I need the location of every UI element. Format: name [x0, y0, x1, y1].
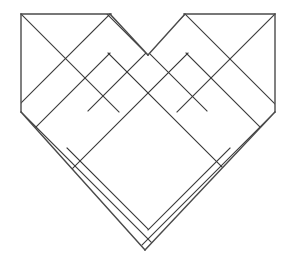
lattice-line-dr-1 [21, 14, 119, 112]
heart-outline-group [21, 14, 275, 250]
outline-lower-right-edge [145, 112, 275, 250]
outline-notch-right [148, 14, 185, 55]
lattice-line-dl-4 [148, 148, 230, 230]
lattice-line-dl-5 [142, 112, 275, 245]
lattice-line-dr-4 [67, 0, 148, 55]
lattice-line-dr-6 [21, 112, 155, 246]
lattice-group-down-left [21, 14, 275, 245]
lattice-line-dl-7 [21, 53, 110, 142]
outline-notch-left [110, 14, 148, 55]
heart-lattice-figure [0, 0, 287, 263]
figure-container: Heart-shaped diagonal square lattice Out… [0, 0, 287, 263]
outline-lower-left-edge [21, 112, 145, 250]
lattice-line-dr-5 [67, 148, 148, 229]
lattice-line-dl-1 [177, 14, 275, 112]
lattice-group-down-right [21, 0, 275, 246]
lattice-line-dr-8 [186, 53, 275, 142]
lattice-line-dl-2 [88, 14, 185, 111]
